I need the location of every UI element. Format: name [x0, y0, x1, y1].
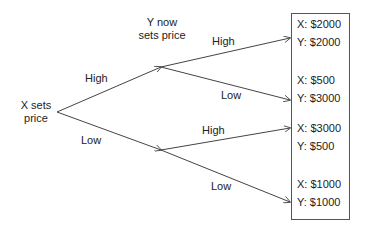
second-mover-label: Y now sets price	[132, 16, 192, 42]
payoff-1-x: X: $2000	[297, 18, 341, 31]
second-mover-label-line1: Y now	[132, 16, 192, 29]
payoff-2-x: X: $500	[297, 74, 335, 87]
payoff-1-y: Y: $2000	[297, 36, 340, 49]
y-branch-high-label-1: High	[212, 35, 235, 48]
x-branch-low-label: Low	[81, 134, 101, 147]
x-branch-high-label: High	[85, 72, 108, 85]
edge-y-low-2	[161, 150, 290, 202]
root-label-line1: X sets	[16, 99, 56, 112]
y-branch-low-label-2: Low	[211, 180, 231, 193]
y-branch-high-label-2: High	[202, 124, 225, 137]
payoff-4-y: Y: $1000	[297, 196, 340, 209]
second-mover-label-line2: sets price	[132, 29, 192, 42]
edge-y-high-2	[161, 128, 290, 150]
payoff-3-y: Y: $500	[297, 140, 334, 153]
edge-x-high	[57, 67, 161, 112]
y-branch-low-label-1: Low	[221, 89, 241, 102]
payoff-4-x: X: $1000	[297, 178, 341, 191]
root-label: X sets price	[16, 99, 56, 125]
payoff-3-x: X: $3000	[297, 122, 341, 135]
payoff-2-y: Y: $3000	[297, 92, 340, 105]
edge-x-low	[57, 112, 161, 150]
root-label-line2: price	[16, 112, 56, 125]
